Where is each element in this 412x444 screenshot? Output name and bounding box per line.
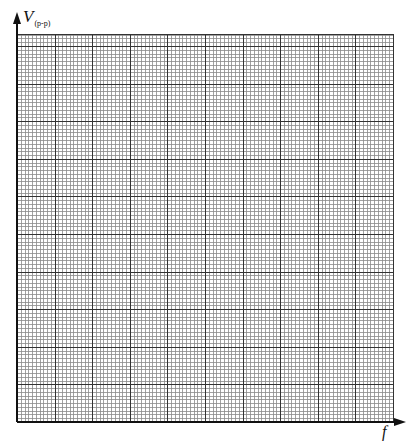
graph-paper: V(p-p) f xyxy=(0,0,412,444)
grid-canvas xyxy=(0,0,412,444)
y-axis-label: V(p-p) xyxy=(23,8,50,25)
y-axis-arrow-icon xyxy=(13,12,21,24)
x-axis-arrow-icon xyxy=(394,418,406,426)
y-axis-label-main: V xyxy=(23,7,33,26)
y-axis-label-subscript: (p-p) xyxy=(34,19,50,28)
x-axis-label: f xyxy=(382,424,386,440)
